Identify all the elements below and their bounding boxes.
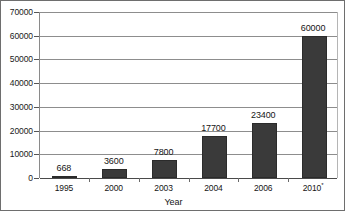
y-axis-tick-label: 10000 xyxy=(10,150,33,159)
y-axis-tick-label: 0 xyxy=(28,174,33,183)
gridline xyxy=(40,36,337,37)
x-axis-tick-mark xyxy=(238,178,239,182)
gridline xyxy=(40,59,337,60)
gridline xyxy=(40,12,337,13)
gridline xyxy=(40,83,337,84)
bar-value-label: 7800 xyxy=(134,148,194,157)
bar xyxy=(252,123,277,178)
x-axis-title: Year xyxy=(1,198,345,207)
bar xyxy=(52,176,77,179)
bar-value-label: 3600 xyxy=(84,157,144,166)
x-axis-tick-mark xyxy=(139,178,140,182)
bar-value-label: 60000 xyxy=(283,24,343,33)
bar xyxy=(202,136,227,178)
y-axis-tick-label: 30000 xyxy=(10,103,33,112)
bar-chart-figure: 010000200003000040000500006000070000 199… xyxy=(0,0,345,211)
x-axis-tick-label: 2010* xyxy=(283,184,343,193)
bar xyxy=(102,169,127,178)
bar xyxy=(302,36,327,178)
gridline xyxy=(40,107,337,108)
bar-value-label: 17700 xyxy=(183,124,243,133)
y-axis-tick-label: 50000 xyxy=(10,55,33,64)
bar-value-label: 23400 xyxy=(233,111,293,120)
bar xyxy=(152,160,177,178)
y-axis-tick-label: 40000 xyxy=(10,79,33,88)
y-axis-tick-label: 20000 xyxy=(10,127,33,136)
y-axis-tick-label: 70000 xyxy=(10,8,33,17)
x-axis-tick-mark xyxy=(189,178,190,182)
x-axis-tick-mark xyxy=(89,178,90,182)
y-axis-tick-label: 60000 xyxy=(10,32,33,41)
footnote-marker: * xyxy=(321,182,323,188)
y-axis-tick-mark xyxy=(34,178,39,179)
x-axis-tick-mark xyxy=(288,178,289,182)
